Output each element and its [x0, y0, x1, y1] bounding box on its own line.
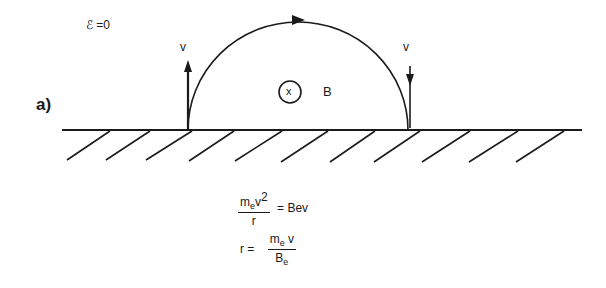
equation-force-balance: mev2 r = Bev [238, 190, 308, 228]
trajectory-direction-arrow-icon [292, 15, 305, 25]
magnetic-field-label: B [323, 84, 332, 99]
eq2-v: v [285, 232, 294, 246]
diagram-canvas [0, 0, 606, 288]
eq1-rhs: = Bev [277, 201, 308, 215]
eq2-fraction: me v Be [268, 232, 296, 268]
part-label: a) [36, 95, 51, 115]
field-condition-label: ℰ =0 [86, 18, 110, 32]
velocity-label-left: v [180, 40, 186, 54]
eq2-numerator: me v [268, 232, 296, 250]
velocity-label-right: v [403, 40, 409, 54]
eq1-denominator: r [252, 213, 256, 228]
eq1-fraction: mev2 r [238, 190, 270, 228]
eq2-sub-e2: e [283, 258, 288, 268]
ground-hatching [67, 131, 564, 162]
eq1-exp: 2 [261, 190, 268, 204]
eq2-m: m [270, 232, 280, 246]
electron-trajectory [188, 22, 408, 130]
arrowhead-down-icon [406, 74, 414, 86]
arrowhead-up-icon [184, 60, 192, 72]
eq2-denominator: Be [275, 250, 288, 267]
eq1-numerator: mev2 [238, 190, 270, 213]
equation-radius: r = me v Be [240, 232, 296, 268]
eq1-m: m [240, 195, 250, 209]
field-symbol-x: x [286, 85, 292, 97]
eq2-lhs: r = [240, 242, 254, 256]
